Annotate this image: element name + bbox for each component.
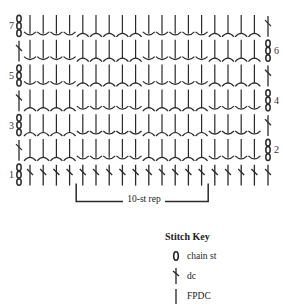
key-item-chain: chain st xyxy=(165,246,275,266)
chart-row-4: 4 xyxy=(16,89,279,111)
chain-icon xyxy=(165,250,187,262)
key-item-fpdc: FPDC xyxy=(165,286,275,306)
key-label-fpdc: FPDC xyxy=(187,291,211,301)
row-number-label: 2 xyxy=(274,144,279,155)
chart-row-2: 2 xyxy=(16,139,279,161)
row-number-label: 4 xyxy=(274,95,279,106)
fpdc-icon xyxy=(165,287,187,305)
dc-icon xyxy=(165,267,187,285)
stitch-key: Stitch Key chain st dc FPDC xyxy=(165,231,275,306)
stitch-key-title: Stitch Key xyxy=(165,231,275,242)
chart-row-1: 1 xyxy=(9,164,271,186)
key-label-chain: chain st xyxy=(187,251,216,261)
chart-row-3: 3 xyxy=(9,114,271,136)
chart-row-7: 7 xyxy=(9,15,271,37)
row-number-label: 6 xyxy=(274,45,279,56)
row-number-label: 3 xyxy=(9,120,14,131)
key-label-dc: dc xyxy=(187,271,196,281)
row-number-label: 5 xyxy=(9,70,14,81)
key-item-dc: dc xyxy=(165,266,275,286)
row-number-label: 1 xyxy=(9,169,14,180)
chart-row-5: 5 xyxy=(9,65,271,87)
row-number-label: 7 xyxy=(9,20,14,31)
repeat-label: 10-st rep xyxy=(0,194,283,204)
chart-row-6: 6 xyxy=(16,40,279,62)
